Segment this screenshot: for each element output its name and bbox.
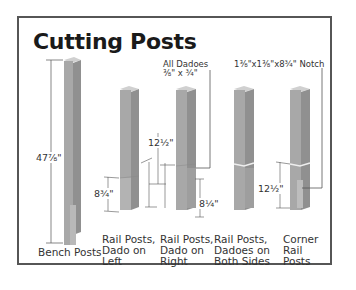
rail-post-dadoes-both-sides — [234, 86, 254, 210]
bench-height-label: 47⅞" — [35, 152, 63, 163]
rail-right-lower-label: 8¼" — [198, 198, 220, 209]
post-label-corner: Corner Rail Posts — [283, 234, 318, 267]
bench-post — [64, 57, 81, 245]
notch-callout-label: 1⅜"x1⅜"x8¾" Notch — [234, 60, 324, 69]
corner-rail-post — [290, 86, 310, 210]
dadoes-callout-line — [196, 70, 210, 168]
dadoes-callout-label: All Dadoes ⅜" x ¾" — [163, 60, 208, 78]
corner-notch-label: 12½" — [257, 183, 285, 194]
post-label-both-sides: Rail Posts, Dadoes on Both Sides — [214, 234, 270, 267]
rail-right-upper-label: 12½" — [147, 137, 175, 148]
rail-post-dado-left — [120, 86, 139, 210]
post-label-rail-right: Rail Posts, Dado on Right — [160, 234, 213, 267]
post-label-rail-left: Rail Posts, Dado on Left — [102, 234, 155, 267]
rail-post-dado-right — [176, 86, 196, 210]
rail-left-dado-label: 8¾" — [93, 188, 115, 199]
post-label-bench: Bench Posts — [38, 247, 102, 258]
